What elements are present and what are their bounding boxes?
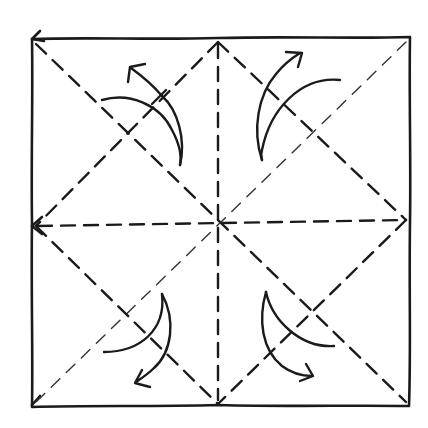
crease-diamond-top-right bbox=[218, 42, 406, 220]
origami-diagram bbox=[0, 0, 428, 428]
fold-arrow-bottom-right bbox=[262, 292, 334, 381]
fold-arrow-bottom-left bbox=[104, 294, 170, 387]
diagram-canvas bbox=[0, 0, 428, 428]
crease-diamond-bottom-left bbox=[36, 226, 218, 404]
fold-arrow-top-right bbox=[257, 52, 340, 160]
fold-arrow-top-left bbox=[102, 64, 182, 165]
corner-tick-top-left-icon bbox=[32, 31, 44, 41]
arrowhead-icon bbox=[300, 364, 313, 381]
